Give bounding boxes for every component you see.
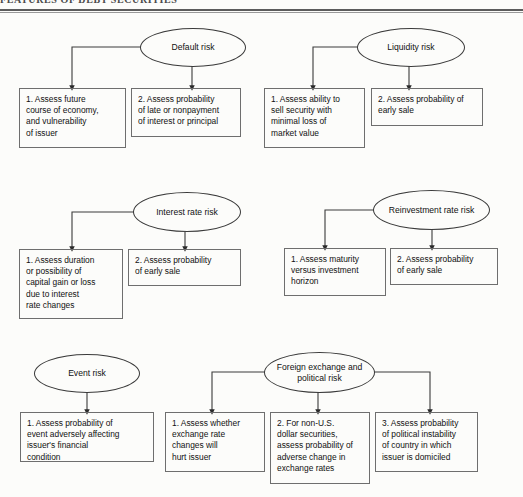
- step-default-1[interactable]: 1. Assess future course of economy, and …: [19, 88, 126, 148]
- connector-fx-1: [212, 372, 265, 412]
- risk-diagram: FEATURES OF DEBT SECURITIES: [0, 0, 523, 497]
- running-head: FEATURES OF DEBT SECURITIES: [0, 0, 300, 5]
- step-fx-3[interactable]: 3. Assess probability of political insta…: [375, 412, 478, 472]
- node-reinvestment-rate-risk[interactable]: Reinvestment rate risk: [373, 190, 490, 230]
- connector-fx-3: [374, 372, 430, 412]
- connector-default-1: [72, 47, 141, 88]
- step-liquidity-1[interactable]: 1. Assess ability to sell security with …: [264, 88, 365, 148]
- node-default-risk[interactable]: Default risk: [140, 28, 246, 67]
- step-reinvest-1[interactable]: 1. Assess maturity versus investment hor…: [284, 248, 386, 296]
- node-liquidity-risk[interactable]: Liquidity risk: [357, 28, 465, 67]
- step-liquidity-2[interactable]: 2. Assess probability of early sale: [371, 88, 483, 126]
- step-fx-1[interactable]: 1. Assess whether exchange rate changes …: [165, 412, 265, 472]
- step-interest-1[interactable]: 1. Assess duration or possibility of cap…: [19, 249, 123, 319]
- node-interest-rate-risk[interactable]: Interest rate risk: [133, 192, 241, 232]
- step-default-2[interactable]: 2. Assess probability of late or nonpaym…: [131, 88, 241, 137]
- header-rule: [0, 9, 523, 11]
- node-fx-political-risk[interactable]: Foreign exchange and political risk: [264, 352, 375, 393]
- step-interest-2[interactable]: 2. Assess probability of early sale: [128, 249, 241, 286]
- node-event-risk[interactable]: Event risk: [34, 354, 140, 393]
- step-fx-2[interactable]: 2. For non-U.S. dollar securities, asses…: [270, 412, 370, 484]
- connector-liquidity-1: [313, 47, 358, 88]
- header-rule-thin: [0, 12, 523, 13]
- step-reinvest-2[interactable]: 2. Assess probability of early sale: [390, 248, 498, 285]
- connector-interest-1: [72, 212, 134, 249]
- connector-reinvest-1: [325, 210, 374, 248]
- step-event-1[interactable]: 1. Assess probability of event adversely…: [20, 412, 154, 462]
